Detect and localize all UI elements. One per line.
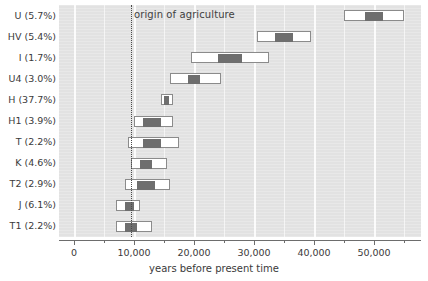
x-axis-tick-label: 40,000 bbox=[297, 247, 330, 258]
y-axis-label: T2 (2.9%) bbox=[0, 178, 56, 189]
texture-band bbox=[59, 86, 421, 87]
bar-row bbox=[59, 158, 421, 169]
texture-band bbox=[59, 131, 421, 132]
bar-point-estimate bbox=[143, 139, 161, 148]
bar-point-estimate bbox=[140, 160, 152, 169]
y-axis-label: I (1.7%) bbox=[0, 52, 56, 63]
texture-band bbox=[59, 5, 421, 6]
plot-area bbox=[59, 5, 421, 237]
texture-band bbox=[59, 212, 421, 213]
texture-band bbox=[59, 26, 421, 27]
texture-band bbox=[59, 170, 421, 171]
x-axis-tick bbox=[404, 241, 405, 243]
x-axis-tick bbox=[194, 241, 195, 245]
bar-point-estimate bbox=[137, 181, 155, 190]
bar-row bbox=[59, 179, 421, 190]
x-axis-tick bbox=[314, 241, 315, 245]
bar-confidence-interval bbox=[344, 10, 404, 21]
x-axis-tick bbox=[164, 241, 165, 243]
texture-band bbox=[59, 23, 421, 24]
x-axis-tick-label: 10,000 bbox=[117, 247, 150, 258]
texture-band bbox=[59, 47, 421, 48]
texture-band bbox=[59, 44, 421, 45]
bar-confidence-interval bbox=[161, 94, 173, 105]
bar-point-estimate bbox=[275, 33, 293, 42]
bar-confidence-interval bbox=[128, 137, 179, 148]
texture-band bbox=[59, 50, 421, 51]
bar-confidence-interval bbox=[191, 52, 269, 63]
texture-band bbox=[59, 113, 421, 114]
bar-point-estimate bbox=[143, 118, 161, 127]
y-axis-label: T1 (2.2%) bbox=[0, 220, 56, 231]
y-axis-label: U4 (3.0%) bbox=[0, 73, 56, 84]
texture-band bbox=[59, 110, 421, 111]
texture-band bbox=[59, 176, 421, 177]
bar-point-estimate bbox=[164, 96, 169, 105]
texture-band bbox=[59, 128, 421, 129]
bar-row bbox=[59, 200, 421, 211]
texture-band bbox=[59, 134, 421, 135]
bar-row bbox=[59, 94, 421, 105]
bar-confidence-interval bbox=[116, 200, 140, 211]
bar-point-estimate bbox=[188, 75, 200, 84]
texture-band bbox=[59, 68, 421, 69]
texture-band bbox=[59, 236, 421, 237]
bar-point-estimate bbox=[218, 54, 242, 63]
texture-band bbox=[59, 215, 421, 216]
y-axis-label: HV (5.4%) bbox=[0, 31, 56, 42]
bar-confidence-interval bbox=[257, 31, 311, 42]
texture-band bbox=[59, 155, 421, 156]
texture-band bbox=[59, 218, 421, 219]
x-axis-tick bbox=[254, 241, 255, 245]
x-axis-line bbox=[59, 240, 421, 241]
bar-confidence-interval bbox=[116, 221, 152, 232]
texture-band bbox=[59, 191, 421, 192]
origin-of-agriculture-label: origin of agriculture bbox=[134, 9, 235, 20]
x-axis-tick bbox=[374, 241, 375, 245]
texture-band bbox=[59, 197, 421, 198]
bar-confidence-interval bbox=[134, 116, 173, 127]
texture-band bbox=[59, 173, 421, 174]
y-axis-label: T (2.2%) bbox=[0, 136, 56, 147]
texture-band bbox=[59, 233, 421, 234]
x-axis-tick-label: 30,000 bbox=[237, 247, 270, 258]
texture-band bbox=[59, 92, 421, 93]
bar-point-estimate bbox=[125, 202, 134, 211]
y-axis-labels: U (5.7%)HV (5.4%)I (1.7%)U4 (3.0%)H (37.… bbox=[0, 5, 56, 237]
x-axis-tick-label: 0 bbox=[71, 247, 77, 258]
chart-figure: U (5.7%)HV (5.4%)I (1.7%)U4 (3.0%)H (37.… bbox=[0, 0, 428, 281]
x-axis-tick bbox=[104, 241, 105, 243]
x-axis-tick bbox=[344, 241, 345, 243]
texture-band bbox=[59, 8, 421, 9]
bar-confidence-interval bbox=[131, 158, 167, 169]
x-axis-tick-label: 50,000 bbox=[357, 247, 390, 258]
bar-row bbox=[59, 116, 421, 127]
texture-band bbox=[59, 65, 421, 66]
y-axis-label: H1 (3.9%) bbox=[0, 115, 56, 126]
x-axis-tick bbox=[134, 241, 135, 245]
y-axis-label: K (4.6%) bbox=[0, 157, 56, 168]
bar-row bbox=[59, 31, 421, 42]
x-axis-tick bbox=[74, 241, 75, 245]
texture-band bbox=[59, 89, 421, 90]
origin-of-agriculture-line bbox=[131, 5, 132, 237]
x-axis-tick-label: 20,000 bbox=[177, 247, 210, 258]
bar-row bbox=[59, 52, 421, 63]
texture-band bbox=[59, 149, 421, 150]
texture-band bbox=[59, 71, 421, 72]
bar-row bbox=[59, 221, 421, 232]
x-axis-tick bbox=[284, 241, 285, 243]
texture-band bbox=[59, 107, 421, 108]
bar-confidence-interval bbox=[170, 73, 221, 84]
x-axis-title: years before present time bbox=[0, 263, 428, 274]
bar-point-estimate bbox=[365, 12, 383, 21]
x-axis-tick bbox=[224, 241, 225, 243]
texture-band bbox=[59, 29, 421, 30]
texture-band bbox=[59, 152, 421, 153]
bar-row bbox=[59, 137, 421, 148]
y-axis-label: J (6.1%) bbox=[0, 199, 56, 210]
bar-row bbox=[59, 10, 421, 21]
texture-band bbox=[59, 194, 421, 195]
y-axis-label: U (5.7%) bbox=[0, 10, 56, 21]
bar-row bbox=[59, 73, 421, 84]
